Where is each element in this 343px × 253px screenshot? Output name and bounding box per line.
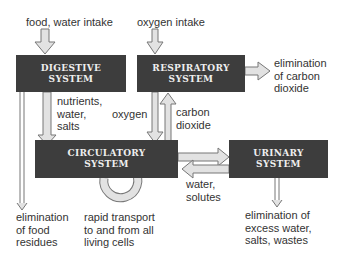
- food-residue-arrow: [20, 92, 24, 204]
- food-residue-label: elimination of food residues: [16, 211, 69, 249]
- food-residue-arrowhead: [17, 203, 27, 210]
- respiratory-subtitle: SYSTEM: [152, 74, 229, 85]
- oxygen-intake-label: oxygen intake: [137, 16, 205, 29]
- circulatory-subtitle: SYSTEM: [67, 159, 145, 170]
- respiratory-title: RESPIRATORY: [152, 63, 229, 74]
- food-intake-label: food, water intake: [26, 16, 113, 29]
- digestive-system-box: DIGESTIVESYSTEM: [16, 55, 126, 92]
- diagram-canvas: DIGESTIVESYSTEM RESPIRATORYSYSTEM CIRCUL…: [0, 0, 343, 253]
- oxygen-arrow: [147, 92, 163, 143]
- digestive-title: DIGESTIVE: [41, 63, 102, 74]
- food-intake-arrow: [35, 29, 55, 54]
- water-solutes-label: water, solutes: [186, 178, 221, 203]
- urinary-subtitle: SYSTEM: [253, 159, 303, 170]
- nutrients-label: nutrients, water, salts: [57, 95, 102, 133]
- urinary-system-box: URINARYSYSTEM: [229, 140, 328, 178]
- nutrients-arrow: [38, 92, 56, 145]
- respiratory-system-box: RESPIRATORYSYSTEM: [137, 55, 245, 92]
- urinary-elimination-arrow: [275, 178, 279, 201]
- co2-elimination-label: elimination of carbon dioxide: [274, 57, 327, 95]
- circulatory-title: CIRCULATORY: [67, 148, 145, 159]
- carbon-dioxide-label: carbon dioxide: [176, 106, 211, 131]
- urinary-elimination-arrowhead: [272, 200, 282, 207]
- urinary-elimination-label: elimination of excess water, salts, wast…: [245, 209, 312, 247]
- circulatory-system-box: CIRCULATORYSYSTEM: [35, 140, 178, 178]
- digestive-subtitle: SYSTEM: [41, 74, 102, 85]
- carbon-dioxide-arrow: [160, 93, 176, 143]
- to-urinary-arrow: [178, 148, 229, 166]
- urinary-title: URINARY: [253, 148, 303, 159]
- rapid-transport-label: rapid transport to and from all living c…: [84, 211, 155, 249]
- oxygen-intake-arrow: [147, 29, 163, 54]
- oxygen-label: oxygen: [112, 108, 147, 121]
- co2-elimination-arrow: [245, 62, 270, 80]
